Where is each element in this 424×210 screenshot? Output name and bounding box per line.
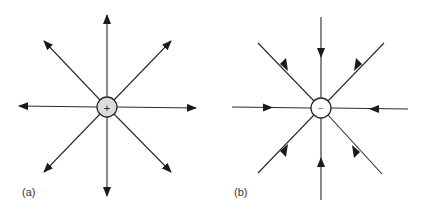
field-line-top-left xyxy=(258,43,314,101)
figure-b-label: (b) xyxy=(234,186,247,198)
arrow-bottom-icon xyxy=(317,157,325,167)
field-line-bottom-right xyxy=(328,115,382,174)
arrow-bottom-right-icon xyxy=(352,145,360,158)
field-lines-diagram: + − xyxy=(0,0,424,210)
field-line-up-right xyxy=(114,41,171,100)
field-line-down-right xyxy=(114,114,171,172)
positive-charge-symbol: + xyxy=(104,102,110,114)
field-line-down-left xyxy=(44,114,100,172)
negative-charge-symbol: − xyxy=(318,103,324,114)
field-line-top-right xyxy=(328,43,384,101)
field-line-right xyxy=(117,107,196,108)
field-line-left xyxy=(19,106,97,107)
arrow-right-icon xyxy=(369,105,379,113)
arrow-top-left-icon xyxy=(280,58,288,71)
figure-a-label: (a) xyxy=(22,186,35,198)
field-line-bottom-left xyxy=(258,115,314,173)
arrow-top-right-icon xyxy=(354,58,362,71)
field-line-up-left xyxy=(44,41,100,100)
arrow-top-icon xyxy=(317,48,325,58)
arrow-left-icon xyxy=(263,104,273,112)
